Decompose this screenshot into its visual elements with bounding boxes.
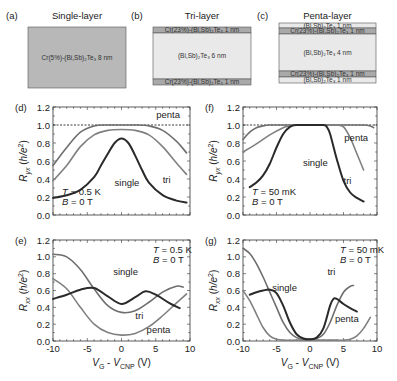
x-axis-label: VG - VCNP (V): [281, 357, 340, 370]
x-axis-label: VG - VCNP (V): [92, 357, 151, 370]
y-tick-label: 1.0: [227, 120, 240, 131]
y-tick-label: 0.6: [37, 156, 50, 167]
layer-label: Cr(5%)-(Bi,Sb)₂Te₃ 8 nm: [42, 54, 113, 62]
figure: (a)Single-layerCr(5%)-(Bi,Sb)₂Te₃ 8 nm(b…: [0, 0, 397, 381]
x-tick-label: 10: [185, 343, 196, 354]
y-axis-label: Ryx (h/e2): [207, 140, 222, 182]
layer-label: (Bi,Sb)₂Te₃ 4 nm: [303, 49, 351, 57]
panel-label: (d): [15, 102, 27, 113]
layer-label: (Bi,Sb)₂Te₃ 1 nm: [303, 76, 351, 84]
layer-label: (Bi,Sb)₂Te₃ 6 nm: [178, 52, 226, 60]
y-tick-label: 1.2: [227, 102, 240, 113]
x-tick-label: 5: [153, 343, 158, 354]
y-axis-label: Rxx (h/e2): [207, 270, 221, 312]
y-tick-label: 1.2: [37, 235, 50, 246]
x-tick-label: -10: [236, 343, 250, 354]
series-penta: [53, 125, 187, 166]
y-tick-label: 1.0: [37, 120, 50, 131]
y-tick-label: 0.0: [37, 210, 50, 221]
panel-label: (c): [257, 10, 268, 21]
schematic-title: Single-layer: [52, 10, 102, 21]
curve-label-tri: tri: [135, 310, 143, 321]
schematic-b: (b)Tri-layerCr(23%)-(Bi,Sb)₂Te₃ 1 nm(Bi,…: [131, 10, 251, 86]
series-tri: [243, 248, 354, 339]
y-tick-label: 0.2: [37, 192, 50, 203]
curve-label-single: single: [115, 177, 140, 188]
chart-e: 0.00.20.40.60.81.01.2-10-50510(e)Rxx (h/…: [15, 235, 195, 370]
panel-label: (b): [131, 10, 143, 21]
layer-label: Cr(23%)-(Bi,Sb)₂Te₃ 1 nm: [165, 78, 240, 86]
x-tick-label: 5: [341, 343, 346, 354]
condition-annotation: B = 0 T: [252, 196, 283, 207]
y-tick-label: 0.6: [37, 285, 50, 296]
y-tick-label: 0.6: [227, 156, 240, 167]
y-axis-label: Rxx (h/e2): [17, 270, 31, 312]
curve-label-tri: tri: [327, 266, 335, 277]
y-tick-label: 0.8: [227, 138, 240, 149]
x-tick-label: -10: [46, 343, 60, 354]
y-tick-label: 0.2: [227, 192, 240, 203]
x-tick-label: 0: [119, 343, 124, 354]
y-tick-label: 0.8: [37, 268, 50, 279]
curve-label-penta: penta: [344, 132, 368, 143]
y-tick-label: 0.4: [37, 302, 50, 313]
curve-label-single: single: [303, 157, 328, 168]
panel-label: (e): [15, 235, 27, 246]
y-tick-label: 0.2: [227, 319, 240, 330]
curve-label-tri: tri: [163, 174, 171, 185]
condition-annotation: B = 0 T: [340, 254, 371, 265]
y-axis-label: Ryx (h/e2): [17, 140, 32, 182]
panel-label: (a): [6, 10, 18, 21]
chart-f: 0.00.20.40.60.81.01.2(f)Ryx (h/e2)pentas…: [205, 102, 377, 221]
y-tick-label: 0.8: [37, 138, 50, 149]
schematic-a: (a)Single-layerCr(5%)-(Bi,Sb)₂Te₃ 8 nm: [6, 10, 126, 88]
y-tick-label: 0.8: [227, 268, 240, 279]
y-tick-label: 1.2: [37, 102, 50, 113]
curve-label-penta: penta: [147, 324, 171, 335]
curve-label-penta: penta: [156, 109, 180, 120]
charts: 0.00.20.40.60.81.01.2(d)Ryx (h/e2)pentat…: [15, 102, 385, 370]
y-tick-label: 0.6: [227, 285, 240, 296]
condition-annotation: B = 0 T: [62, 196, 93, 207]
schematic-title: Tri-layer: [185, 10, 219, 21]
chart-d: 0.00.20.40.60.81.01.2(d)Ryx (h/e2)pentat…: [15, 102, 190, 221]
curve-label-single: single: [113, 266, 138, 277]
schematic-c: (c)Penta-layer(Bi,Sb)₂Te₃ 1 nmCr(23%)-(B…: [257, 10, 376, 84]
y-tick-label: 0.4: [227, 302, 240, 313]
y-tick-label: 0.4: [227, 174, 240, 185]
curve-label-tri: tri: [344, 175, 352, 186]
y-tick-label: 0.4: [37, 174, 50, 185]
y-tick-label: 1.0: [37, 251, 50, 262]
x-tick-label: 10: [372, 343, 383, 354]
chart-g: 0.00.20.40.60.81.01.2-10-50510(g)Rxx (h/…: [205, 235, 385, 370]
x-tick-label: -5: [272, 343, 280, 354]
condition-annotation: B = 0 T: [153, 254, 184, 265]
schematic-title: Penta-layer: [303, 10, 352, 21]
layer-schematics: (a)Single-layerCr(5%)-(Bi,Sb)₂Te₃ 8 nm(b…: [6, 10, 376, 88]
curve-label-single: single: [272, 282, 297, 293]
y-tick-label: 1.2: [227, 235, 240, 246]
curve-label-penta: penta: [335, 313, 359, 324]
panel-label: (f): [205, 102, 214, 113]
y-tick-label: 1.0: [227, 251, 240, 262]
series-single: [53, 288, 180, 309]
x-tick-label: 0: [307, 343, 312, 354]
x-tick-label: -5: [83, 343, 91, 354]
y-tick-label: 0.0: [227, 210, 240, 221]
panel-label: (g): [205, 235, 217, 246]
y-tick-label: 0.2: [37, 319, 50, 330]
